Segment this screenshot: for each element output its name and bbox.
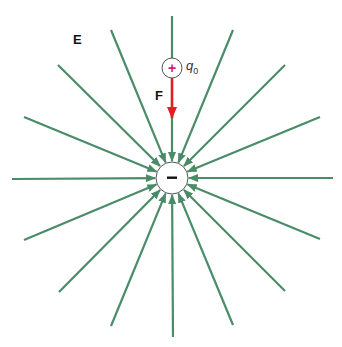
field-line (188, 185, 320, 240)
field-line (188, 117, 320, 172)
electric-field-diagram: + (0, 0, 342, 347)
field-line (184, 65, 285, 166)
negative-sign-icon (167, 177, 177, 179)
test-charge-label: q0 (186, 58, 198, 76)
field-line (184, 190, 285, 291)
test-charge-subscript: 0 (193, 66, 198, 76)
force-label: F (155, 88, 163, 103)
positive-sign-icon: + (168, 60, 176, 76)
field-line (172, 195, 173, 337)
field-label: E (73, 32, 82, 47)
field-line (179, 30, 234, 162)
field-line (12, 178, 155, 179)
field-line (179, 194, 234, 325)
